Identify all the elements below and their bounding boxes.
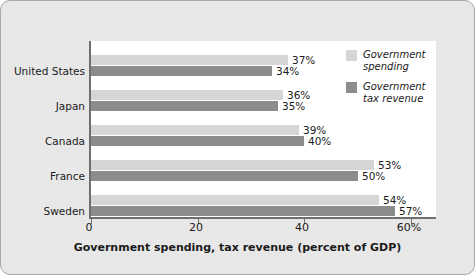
- bar-value-label: 40%: [308, 136, 331, 146]
- bar-tax-revenue: [91, 171, 358, 181]
- legend-label-line1: Government: [363, 81, 426, 93]
- bar-tax-revenue: [91, 136, 304, 146]
- bar-tax-revenue: [91, 66, 272, 76]
- legend-label-line2: tax revenue: [363, 93, 426, 105]
- legend-label-line1: Government: [363, 49, 426, 61]
- x-axis-title: Government spending, tax revenue (percen…: [1, 241, 474, 254]
- bar-spending: [91, 195, 379, 205]
- category-label: United States: [1, 65, 85, 77]
- bar-spending: [91, 55, 288, 65]
- legend-label-spending: Government spending: [363, 49, 426, 72]
- bar-value-label: 37%: [292, 55, 315, 65]
- legend-swatch-tax-revenue-icon: [346, 82, 357, 93]
- bar-value-label: 54%: [383, 195, 406, 205]
- bar-spending: [91, 160, 374, 170]
- category-axis-labels: United States Japan Canada France Sweden: [1, 41, 85, 219]
- category-label: Canada: [1, 135, 85, 147]
- legend-item-spending: Government spending: [346, 49, 436, 72]
- category-label: Japan: [1, 100, 85, 112]
- legend-item-tax-revenue: Government tax revenue: [346, 81, 436, 104]
- bar-value-label: 50%: [362, 171, 385, 181]
- bar-spending: [91, 125, 299, 135]
- legend-swatch-spending-icon: [346, 50, 357, 61]
- category-label: France: [1, 170, 85, 182]
- chart-legend: Government spending Government tax reven…: [346, 49, 436, 113]
- category-label: Sweden: [1, 205, 85, 217]
- bar-value-label: 53%: [378, 160, 401, 170]
- plot-area: 37% 34% 36% 35% 39% 40% 53% 50%: [89, 41, 436, 219]
- x-tick-label: 0: [86, 221, 93, 234]
- x-tick-label: 60%: [397, 221, 421, 234]
- bar-value-label: 39%: [303, 125, 326, 135]
- x-tick-label: 40: [295, 221, 309, 234]
- bar-spending: [91, 90, 283, 100]
- chart-figure: United States Japan Canada France Sweden…: [0, 0, 475, 275]
- bar-value-label: 34%: [276, 66, 299, 76]
- bar-tax-revenue: [91, 206, 395, 216]
- bar-value-label: 57%: [399, 206, 422, 216]
- bar-tax-revenue: [91, 101, 278, 111]
- x-tick-label: 20: [189, 221, 203, 234]
- bar-value-label: 35%: [282, 101, 305, 111]
- legend-label-tax-revenue: Government tax revenue: [363, 81, 426, 104]
- bar-value-label: 36%: [287, 90, 310, 100]
- legend-label-line2: spending: [363, 61, 426, 73]
